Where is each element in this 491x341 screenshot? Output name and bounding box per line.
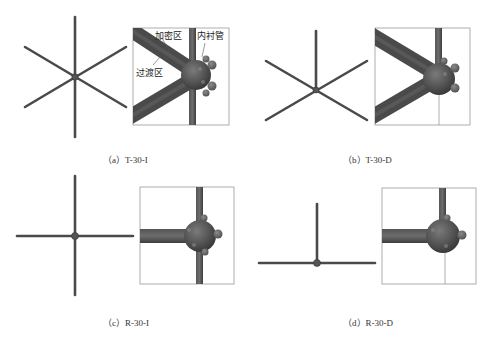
panel-b-node bbox=[313, 87, 319, 93]
panel-d-grid-overview bbox=[259, 204, 375, 263]
panel-c-node bbox=[72, 233, 79, 240]
label-transition-zone: 过渡区 bbox=[136, 66, 163, 79]
panel-b-detail-box bbox=[370, 26, 470, 125]
panel-d-node bbox=[314, 260, 321, 267]
caption-a: （a）T-30-I bbox=[103, 153, 148, 166]
panel-b-grid-overview bbox=[266, 31, 367, 120]
panel-d-detail-box bbox=[380, 186, 476, 284]
figure-canvas bbox=[0, 0, 491, 341]
caption-d: （d）R-30-D bbox=[343, 316, 393, 329]
panel-c bbox=[17, 176, 234, 295]
panel-c-detail-box bbox=[138, 185, 234, 287]
panel-a-node bbox=[72, 74, 78, 80]
label-densified-zone: 加密区 bbox=[155, 29, 182, 42]
caption-b: （b）T-30-D bbox=[343, 153, 392, 166]
panel-b bbox=[266, 26, 470, 125]
caption-c: （c）R-30-I bbox=[103, 316, 149, 329]
panel-d bbox=[259, 186, 476, 284]
label-liner-tube: 内衬管 bbox=[197, 29, 224, 42]
